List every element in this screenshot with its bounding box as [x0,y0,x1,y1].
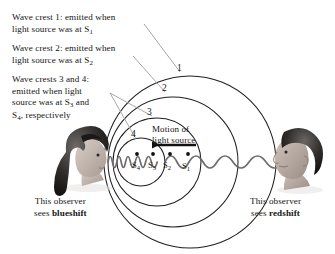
annotation-observer-left: This observer sees blueshift [34,196,87,219]
annotation-crest-2-line1: Wave crest 2: emitted when [12,43,115,55]
annotation-crest-34-line3-suffix: and [73,97,89,107]
annotation-crest-2: Wave crest 2: emitted when light source … [12,43,115,67]
annotation-crest-2-line2-text: light source was at S [12,55,89,65]
source-label-s3-sub: 3 [153,164,156,171]
annotation-crest-34-line3-sub: 3 [70,101,74,109]
leader-line-crest1 [144,24,180,72]
annotation-crest-1-line2: light source was at S1 [12,24,115,37]
annotation-crest-34-line1: Wave crests 3 and 4: [12,74,89,86]
annotation-observer-right-line1: This observer [250,196,301,208]
source-label-s2-sub: 2 [168,164,171,171]
annotation-crest-1-line2-text: light source was at S [12,24,89,34]
annotation-observer-left-line2: sees blueshift [34,208,87,220]
source-label-s4: S4 [132,160,140,170]
annotation-crest-1-line2-sub: 1 [89,28,93,36]
leader-lines [110,24,180,139]
annotation-observer-right: This observer sees redshift [250,196,301,219]
source-dot-s4 [135,152,139,156]
annotation-observer-left-sees: sees [34,208,52,218]
annotation-crest-34-line4-sub: 4 [17,114,21,122]
observer-right-eye [285,151,288,154]
source-label-s1-sub: 1 [187,165,190,172]
source-label-s2: S2 [163,160,171,170]
annotation-observer-right-sees: sees [251,208,269,218]
annotation-crest-1-line1: Wave crest 1: emitted when [12,12,115,24]
crest-number-4: 4 [131,129,136,139]
annotation-observer-right-redshift: redshift [269,208,300,218]
annotation-observer-left-line1: This observer [34,196,87,208]
annotation-crest-2-line2-sub: 2 [89,59,93,67]
annotation-crest-1: Wave crest 1: emitted when light source … [12,12,115,36]
source-label-s4-sub: 4 [137,164,140,171]
annotation-crest-34-line4-suffix: , respectively [21,110,71,120]
source-label-s1: S1 [182,161,190,171]
annotation-crest-34-line3-text: source was at S [12,97,70,107]
source-position-dots [135,152,190,156]
annotation-crest-34-line2: emitted when light [12,86,89,98]
annotation-crest-2-line2: light source was at S2 [12,55,115,68]
annotation-motion-line2: light source [152,135,195,146]
crest-number-2: 2 [162,83,167,93]
wave-crest-circle-2 [108,97,238,227]
source-dot-s3 [151,152,155,156]
source-label-s3: S3 [148,160,156,170]
observer-left-eye [97,154,100,157]
annotation-crest-34-line4: S4, respectively [12,110,89,123]
annotation-observer-left-blueshift: blueshift [52,208,87,218]
annotation-crest-3-and-4: Wave crests 3 and 4: emitted when light … [12,74,89,122]
observer-right-figure [273,128,323,194]
crest-number-1: 1 [177,63,182,73]
source-dot-s1 [186,152,190,156]
annotation-motion-line1: Motion of [152,124,195,135]
annotation-motion-of-light-source: Motion of light source [152,124,195,146]
annotation-observer-right-line2: sees redshift [250,208,301,220]
annotation-crest-34-line3: source was at S3 and [12,97,89,110]
crest-number-3: 3 [147,107,152,117]
source-dot-s2 [168,152,172,156]
observer-left-figure [54,126,112,196]
